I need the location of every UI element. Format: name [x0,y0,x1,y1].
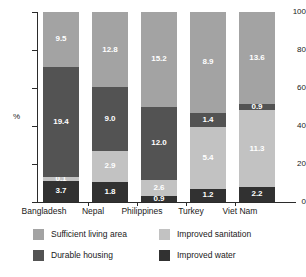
chart-legend: Sufficient living area Improved sanitati… [33,229,285,271]
y-tick-20 [32,164,37,165]
y-tick-60 [32,88,37,89]
legend-label-living-area: Sufficient living area [51,229,127,240]
bar-viet-nam: 13.60.911.32.2 [239,12,275,202]
legend-swatch-icon-living-area [33,229,44,240]
y-tick-80 [32,50,37,51]
segment-value-bangladesh-living-area: 9.5 [55,35,66,43]
legend-swatch-icon-sanitation [159,229,170,240]
segment-value-turkey-sanitation: 5.4 [202,154,213,162]
segment-nepal-living-area: 12.8 [92,12,128,87]
segment-nepal-durable-housing: 9.0 [92,87,128,151]
segment-turkey-durable-housing: 1.4 [190,113,226,127]
y-axis-title: % [13,112,20,121]
segment-value-viet-nam-living-area: 13.6 [249,54,265,62]
legend-label-durable-housing: Durable housing [51,250,113,261]
segment-turkey-sanitation: 5.4 [190,127,226,189]
segment-value-turkey-improved-water: 1.2 [202,191,213,199]
segment-bangladesh-durable-housing: 19.4 [43,67,79,177]
bar-turkey: 8.91.45.41.2 [190,12,226,202]
stacked-bar-chart: % 100 80 60 40 20 0 9.519.40.13.712.89.0… [0,0,306,277]
segment-value-philippines-durable-housing: 12.0 [151,139,167,147]
y-tick-40 [32,126,37,127]
legend-label-improved-water: Improved water [177,250,236,261]
segment-bangladesh-living-area: 9.5 [43,12,79,67]
segment-value-nepal-living-area: 12.8 [102,46,118,54]
segment-philippines-living-area: 15.2 [141,12,177,107]
segment-philippines-durable-housing: 12.0 [141,107,177,180]
bar-nepal: 12.89.02.91.8 [92,12,128,202]
legend-item-improved-water: Improved water [159,250,285,261]
plot-area: 9.519.40.13.712.89.02.91.815.212.02.60.9… [38,12,296,202]
segment-nepal-sanitation: 2.9 [92,151,128,182]
segment-value-nepal-sanitation: 2.9 [104,162,115,170]
legend-swatch-icon-improved-water [159,250,170,261]
legend-label-sanitation: Improved sanitation [177,229,251,240]
bar-bangladesh: 9.519.40.13.7 [43,12,79,202]
segment-turkey-living-area: 8.9 [190,12,226,113]
segment-value-philippines-improved-water: 0.9 [153,196,164,202]
segment-value-turkey-living-area: 8.9 [202,58,213,66]
segment-value-turkey-durable-housing: 1.4 [202,116,213,124]
segment-philippines-improved-water: 0.9 [141,196,177,202]
legend-item-sufficient-living-area: Sufficient living area [33,229,159,240]
bar-philippines: 15.212.02.60.9 [141,12,177,202]
segment-value-nepal-durable-housing: 9.0 [104,115,115,123]
segment-value-nepal-improved-water: 1.8 [104,188,115,196]
x-axis-line [37,202,296,203]
legend-swatch-icon-durable-housing [33,250,44,261]
segment-bangladesh-improved-water: 3.7 [43,181,79,202]
y-tick-100 [32,12,37,13]
segment-philippines-sanitation: 2.6 [141,180,177,196]
segment-value-philippines-living-area: 15.2 [151,55,167,63]
x-label-vietnam: Viet Nam [209,206,271,216]
segment-value-bangladesh-improved-water: 3.7 [55,187,66,195]
segment-value-bangladesh-durable-housing: 19.4 [53,118,69,126]
legend-row-2: Durable housing Improved water [33,250,285,261]
segment-viet-nam-living-area: 13.6 [239,12,275,104]
segment-value-viet-nam-improved-water: 2.2 [251,190,262,198]
segment-turkey-improved-water: 1.2 [190,189,226,202]
segment-value-philippines-sanitation: 2.6 [153,184,164,192]
segment-viet-nam-improved-water: 2.2 [239,187,275,202]
legend-item-durable-housing: Durable housing [33,250,159,261]
segment-nepal-improved-water: 1.8 [92,182,128,202]
segment-viet-nam-sanitation: 11.3 [239,110,275,187]
legend-item-improved-sanitation: Improved sanitation [159,229,285,240]
segment-value-viet-nam-sanitation: 11.3 [249,145,264,153]
legend-row-1: Sufficient living area Improved sanitati… [33,229,285,240]
